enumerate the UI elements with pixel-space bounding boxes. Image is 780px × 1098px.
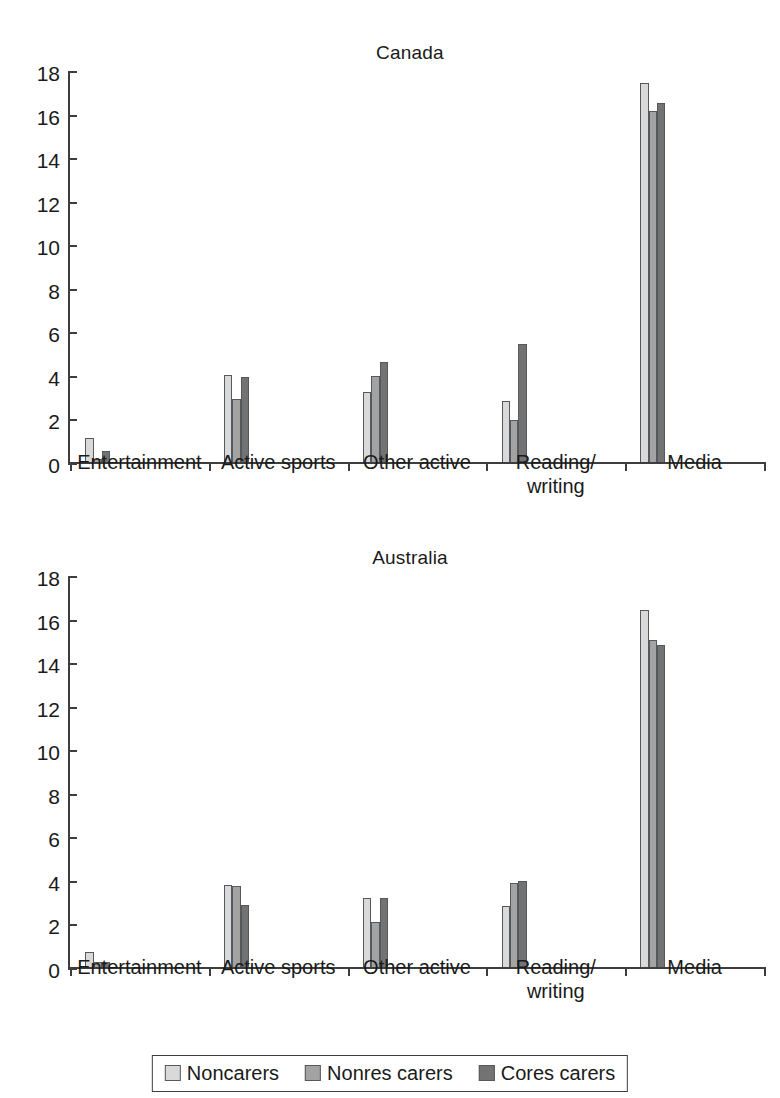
bar-group-australia-4 [625,577,764,969]
bar-groups-australia [70,577,764,969]
x-label-line: writing [486,474,625,498]
bar-group-australia-1 [209,577,348,969]
y-tick-label-australia-8: 8 [0,786,68,807]
bar-canada-4-2 [657,103,665,465]
y-tick-label-canada-14: 14 [0,150,68,171]
chart-australia: Australia 024681012141618 EntertainmentA… [0,545,780,1015]
y-tick-label-canada-16: 16 [0,107,68,128]
x-axis-category-labels-australia: EntertainmentActive sportsOther activeRe… [70,951,764,1011]
x-tick-canada-5 [764,462,766,471]
bar-group-canada-2 [348,72,487,464]
y-tick-label-canada-2: 2 [0,411,68,432]
bar-australia-4-2 [657,645,665,969]
bar-group-australia-3 [486,577,625,969]
x-label-line: Active sports [209,955,348,979]
y-tick-label-australia-16: 16 [0,612,68,633]
y-tick-label-canada-8: 8 [0,281,68,302]
x-category-label-canada-4: Media [625,450,764,474]
legend-swatch-icon-nonres-carers [305,1065,321,1081]
bar-group-canada-4 [625,72,764,464]
bar-canada-4-0 [640,83,648,464]
chart-title-australia: Australia [0,545,780,571]
x-label-line: Reading/ [486,955,625,979]
legend-swatch-icon-noncarers [165,1065,181,1081]
y-tick-label-australia-0: 0 [0,960,68,981]
x-category-label-australia-3: Reading/writing [486,955,625,1003]
x-label-line: Reading/ [486,450,625,474]
legend-label-noncarers: Noncarers [187,1062,279,1084]
y-tick-label-canada-0: 0 [0,455,68,476]
legend-item-cores-carers: Cores carers [479,1062,615,1084]
x-category-label-canada-3: Reading/writing [486,450,625,498]
bar-group-australia-0 [70,577,209,969]
chart-title-canada: Canada [0,40,780,66]
legend-label-cores-carers: Cores carers [501,1062,615,1084]
y-tick-label-canada-6: 6 [0,324,68,345]
bar-australia-4-1 [649,640,657,969]
legend-item-noncarers: Noncarers [165,1062,279,1084]
x-axis-category-labels-canada: EntertainmentActive sportsOther activeRe… [70,446,764,506]
y-tick-label-canada-18: 18 [0,63,68,84]
bar-group-canada-3 [486,72,625,464]
legend-item-nonres-carers: Nonres carers [305,1062,453,1084]
x-category-label-australia-4: Media [625,955,764,979]
figure-page: Canada 024681012141618 EntertainmentActi… [0,0,780,1098]
bar-australia-4-0 [640,610,648,969]
bar-group-canada-1 [209,72,348,464]
y-tick-label-australia-12: 12 [0,699,68,720]
y-tick-label-australia-10: 10 [0,742,68,763]
y-tick-label-australia-6: 6 [0,829,68,850]
plot-area-australia: 024681012141618 EntertainmentActive spor… [0,577,780,1007]
y-tick-label-australia-14: 14 [0,655,68,676]
chart-legend: Noncarers Nonres carers Cores carers [152,1055,628,1092]
y-tick-label-australia-2: 2 [0,916,68,937]
x-category-label-australia-2: Other active [348,955,487,979]
x-label-line: Other active [348,955,487,979]
x-label-line: writing [486,979,625,1003]
y-tick-label-canada-12: 12 [0,194,68,215]
x-category-label-canada-2: Other active [348,450,487,474]
chart-canada: Canada 024681012141618 EntertainmentActi… [0,40,780,540]
y-tick-label-canada-4: 4 [0,368,68,389]
bar-group-australia-2 [348,577,487,969]
x-category-label-australia-1: Active sports [209,955,348,979]
x-tick-australia-5 [764,967,766,976]
legend-swatch-icon-cores-carers [479,1065,495,1081]
bar-canada-4-1 [649,111,657,464]
x-label-line: Active sports [209,450,348,474]
x-label-line: Media [625,450,764,474]
plot-area-canada: 024681012141618 EntertainmentActive spor… [0,72,780,502]
x-label-line: Media [625,955,764,979]
bar-group-canada-0 [70,72,209,464]
legend-label-nonres-carers: Nonres carers [327,1062,453,1084]
bar-groups-canada [70,72,764,464]
x-label-line: Entertainment [70,450,209,474]
y-tick-label-australia-18: 18 [0,568,68,589]
x-label-line: Entertainment [70,955,209,979]
x-category-label-canada-1: Active sports [209,450,348,474]
y-tick-label-australia-4: 4 [0,873,68,894]
x-category-label-australia-0: Entertainment [70,955,209,979]
x-label-line: Other active [348,450,487,474]
x-category-label-canada-0: Entertainment [70,450,209,474]
y-tick-label-canada-10: 10 [0,237,68,258]
